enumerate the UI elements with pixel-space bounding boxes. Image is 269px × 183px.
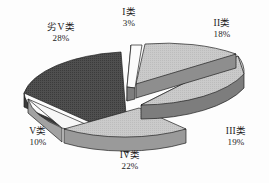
slice-label-v-name: V类 [12,126,64,137]
slice-label-inferior-v-name: 劣V类 [30,22,92,33]
slice-label-ii: II类 18% [196,18,248,39]
slice-label-iii-value: 19% [210,137,262,147]
slice-label-iv-value: 22% [104,161,156,171]
slice-label-iii-name: III类 [210,126,262,137]
slice-label-iv-name: IV类 [104,150,156,161]
slice-label-inferior-v: 劣V类 28% [30,22,92,43]
slice-label-v-value: 10% [12,137,64,147]
slice-label-v: V类 10% [12,126,64,147]
slice-label-ii-value: 18% [196,29,248,39]
slice-label-i-name: I类 [103,7,155,18]
slice-label-iv: IV类 22% [104,150,156,171]
pie-chart-figure: I类 3% II类 18% III类 19% IV类 22% V类 10% 劣V… [0,0,269,183]
slice-label-iii: III类 19% [210,126,262,147]
slice-label-i: I类 3% [103,7,155,28]
slice-label-ii-name: II类 [196,18,248,29]
slice-label-inferior-v-value: 28% [30,33,92,43]
slice-label-i-value: 3% [103,18,155,28]
